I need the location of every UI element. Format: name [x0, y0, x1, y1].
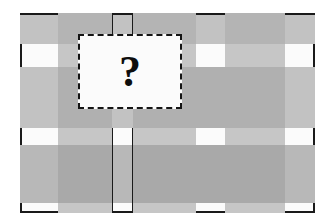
- pattern-cell: [20, 13, 58, 44]
- pattern-cell: [133, 145, 196, 203]
- pattern-cell: [196, 145, 225, 203]
- right-segment-2: [313, 128, 315, 145]
- bottom-segment-3: [196, 211, 225, 213]
- col-divider-left-lower: [112, 128, 113, 213]
- pattern-cell: [225, 128, 285, 145]
- pattern-cell: [225, 145, 285, 203]
- pattern-cell: [133, 128, 196, 145]
- left-segment-1: [20, 44, 22, 67]
- pattern-cell: [58, 203, 112, 213]
- pattern-cell: [20, 67, 58, 128]
- pattern-cell: [196, 44, 225, 67]
- pattern-cell: [285, 44, 315, 67]
- pattern-cell: [285, 145, 315, 203]
- occluder-box: ?: [78, 34, 182, 109]
- pattern-cell: [112, 128, 133, 145]
- figure-canvas: ?: [0, 0, 333, 222]
- left-segment-2: [20, 128, 22, 145]
- pattern-cell: [196, 67, 225, 128]
- pattern-cell: [285, 13, 315, 44]
- top-segment-3: [196, 13, 225, 15]
- top-segment-4: [285, 13, 315, 15]
- top-segment-1: [20, 13, 58, 15]
- bottom-segment-4: [285, 211, 315, 213]
- pattern-cell: [58, 128, 112, 145]
- top-segment-2: [112, 13, 133, 15]
- right-segment-1: [313, 44, 315, 67]
- pattern-cell: [196, 128, 225, 145]
- pattern-cell: [20, 44, 58, 67]
- pattern-cell: [133, 203, 196, 213]
- pattern-cell: [225, 13, 285, 44]
- pattern-cell: [20, 145, 58, 203]
- pattern-cell: [20, 128, 58, 145]
- question-mark-glyph: ?: [119, 50, 141, 94]
- pattern-cell: [225, 44, 285, 67]
- bottom-segment-2: [112, 211, 133, 213]
- pattern-cell: [225, 203, 285, 213]
- pattern-cell: [58, 145, 112, 203]
- pattern-cell: [285, 128, 315, 145]
- pattern-cell: [196, 13, 225, 44]
- pattern-cell: [112, 145, 133, 203]
- bottom-segment-1: [20, 211, 58, 213]
- col-divider-right-lower: [132, 128, 133, 213]
- pattern-cell: [225, 67, 285, 128]
- pattern-cell: [285, 67, 315, 128]
